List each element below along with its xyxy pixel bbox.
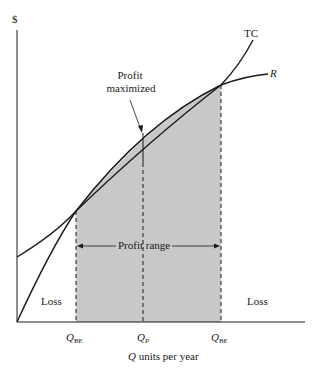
profit-max-arrow [130, 100, 141, 130]
tick-qbe-right: QBE [211, 331, 228, 348]
loss-left-label: Loss [41, 295, 62, 308]
chart-canvas [0, 0, 318, 370]
loss-right-label: Loss [247, 295, 268, 308]
y-axis-label: $ [12, 13, 18, 26]
r-label: R [270, 67, 277, 80]
x-axis-label: Q units per year [128, 350, 199, 363]
profit-range-shade [76, 85, 221, 322]
profit-range-label: Profit range [118, 239, 170, 252]
tc-label: TC [244, 27, 258, 40]
tick-qbe-left: QBE [66, 331, 83, 348]
tick-qp: QP [137, 331, 149, 348]
profit-max-line2: maximized [100, 82, 162, 95]
profit-max-line1: Profit [104, 69, 156, 82]
arrowhead-profit-max [138, 125, 143, 133]
